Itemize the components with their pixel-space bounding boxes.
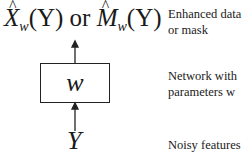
- or-connector: or: [70, 4, 91, 31]
- x-hat-symbol: X: [4, 3, 19, 33]
- network-label: w: [66, 68, 83, 98]
- annotation-noisy: Noisy features: [168, 137, 241, 153]
- annotation-network: Network with parameters w: [168, 68, 237, 100]
- network-box: w: [40, 63, 110, 103]
- input-label: Y: [67, 126, 81, 156]
- output-formula: Xw(Y) or Mw(Y): [4, 3, 162, 42]
- annotation-enhanced: Enhanced data or mask: [168, 6, 241, 38]
- m-hat-symbol: M: [97, 3, 118, 33]
- arrowhead-up-box: [72, 103, 78, 109]
